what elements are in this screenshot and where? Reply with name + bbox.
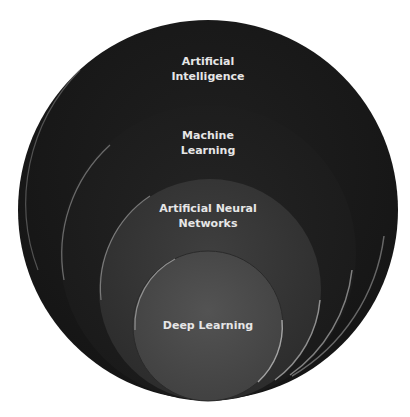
- label-artificial-neural-networks-line1: Artificial Neural: [159, 202, 257, 215]
- label-machine-learning-line1: Machine: [182, 129, 234, 142]
- circle-deep-learning: Deep Learning: [133, 251, 283, 401]
- ai-nested-circles-diagram: Artificial Intelligence Machine Learning…: [0, 0, 410, 417]
- label-deep-learning: Deep Learning: [163, 319, 253, 332]
- label-artificial-intelligence-line2: Intelligence: [171, 70, 244, 83]
- label-artificial-neural-networks-line2: Networks: [179, 217, 238, 230]
- label-artificial-intelligence-line1: Artificial: [182, 55, 235, 68]
- label-machine-learning-line2: Learning: [181, 144, 236, 157]
